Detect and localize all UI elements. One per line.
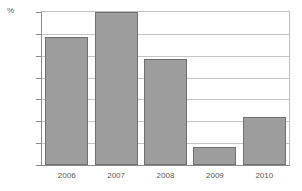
gridline [42,34,289,35]
bar-2007 [95,12,138,165]
y-axis-unit-label: % [7,6,14,16]
bar-2006 [45,37,88,165]
bar-2009 [193,147,236,165]
x-axis-tick-label: 2008 [141,171,190,181]
bar-2010 [243,117,286,165]
x-axis-tick-label: 2009 [190,171,239,181]
plot-area [41,11,290,166]
x-axis-tick-label: 2007 [91,171,140,181]
bar-chart: % 0.00.51.01.52.02.53.03.5 2006200720082… [0,0,302,191]
x-axis-tick-label: 2010 [240,171,289,181]
bar-2008 [144,59,187,165]
x-axis-tick-label: 2006 [42,171,91,181]
